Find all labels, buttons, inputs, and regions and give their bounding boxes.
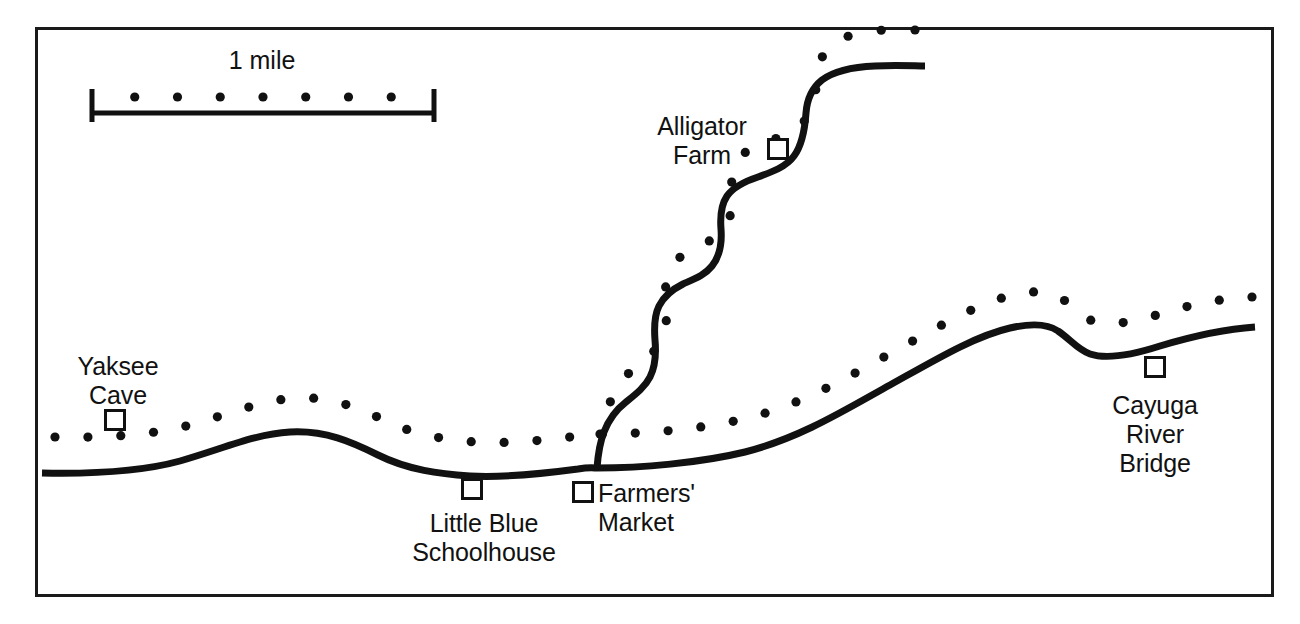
dotted-trail-lines [50, 25, 1256, 447]
label-cayuga-river-bridge: Cayuga River Bridge [1112, 391, 1198, 478]
marker-yaksee-cave[interactable] [106, 411, 125, 430]
marker-cayuga-river-bridge[interactable] [1146, 358, 1165, 377]
main-valley-trail-dotted-dot [341, 400, 350, 409]
main-valley-trail-dotted-dot [760, 409, 769, 418]
alligator-farm-trail-dotted-dot [818, 52, 827, 61]
main-valley-trail-dotted-dot [1247, 292, 1256, 301]
alligator-farm-trail-dotted-dot [705, 236, 714, 245]
main-valley-trail-dotted-dot [434, 433, 443, 442]
alligator-farm-trail-dotted [595, 25, 919, 438]
main-valley-trail-dotted-dot [565, 432, 574, 441]
main-valley-trail-dotted-dot [879, 352, 888, 361]
label-yaksee-cave: Yaksee Cave [78, 352, 159, 410]
main-valley-trail-dotted-dot [1086, 316, 1095, 325]
main-valley-trail-dotted-dot [729, 417, 738, 426]
main-valley-trail-dotted-dot [213, 412, 222, 421]
main-valley-trail-dotted-dot [937, 321, 946, 330]
main-valley-trail-dotted-dot [908, 336, 917, 345]
main-valley-trail-dotted-dot [791, 397, 800, 406]
main-valley-trail-dotted-dot [821, 384, 830, 393]
main-valley-trail-dotted-dot [1119, 318, 1128, 327]
main-valley-trail-dotted-dot [966, 306, 975, 315]
label-little-blue-schoolhouse: Little Blue Schoolhouse [412, 509, 555, 567]
scale-bar-label: 1 mile [229, 46, 296, 75]
alligator-farm-trail-dotted-dot [726, 211, 735, 220]
scale-bar-dot [344, 92, 353, 101]
scale-bar-dot [258, 92, 267, 101]
main-valley-trail-dotted-dot [83, 433, 92, 442]
main-valley-trail-dotted-dot [499, 438, 508, 447]
main-valley-trail-dotted-dot [850, 368, 859, 377]
main-valley-trail-dotted-dot [244, 402, 253, 411]
main-valley-trail-dotted-dot [372, 412, 381, 421]
main-valley-trail-dotted-dot [149, 428, 158, 437]
scale-bar-dot [301, 92, 310, 101]
marker-farmers-market[interactable] [574, 483, 593, 502]
marker-alligator-farm[interactable] [769, 140, 788, 159]
alligator-farm-trail-dotted-dot [624, 369, 633, 378]
alligator-farm-trail-dotted-dot [843, 32, 852, 41]
scale-bar-dots [130, 92, 396, 101]
main-valley-trail-dotted-dot [276, 395, 285, 404]
main-valley-trail-dotted-dot [696, 422, 705, 431]
scale-bar-dot [216, 92, 225, 101]
main-valley-road [42, 325, 1255, 477]
main-valley-trail-dotted-dot [1215, 296, 1224, 305]
scale-bar-dot [387, 92, 396, 101]
main-valley-trail-dotted-dot [631, 428, 640, 437]
main-valley-trail-dotted-dot [402, 425, 411, 434]
main-valley-trail-dotted-dot [467, 437, 476, 446]
main-valley-trail-dotted-dot [997, 294, 1006, 303]
main-valley-trail-dotted-dot [116, 431, 125, 440]
scale-bar [92, 89, 434, 122]
alligator-farm-trail-dotted-dot [606, 397, 615, 406]
marker-little-blue-schoolhouse[interactable] [463, 480, 482, 499]
main-valley-trail-dotted-dot [532, 436, 541, 445]
label-farmers-market: Farmers' Market [598, 479, 695, 537]
main-valley-trail-dotted-dot [1029, 287, 1038, 296]
scale-bar-dot [173, 92, 182, 101]
alligator-farm-trail-dotted-dot [877, 26, 886, 35]
main-valley-trail-dotted-dot [663, 426, 672, 435]
alligator-farm-trail-dotted-dot [675, 253, 684, 262]
main-valley-trail-dotted-dot [309, 394, 318, 403]
terrain-profile-map: 1 mile Yaksee Cave Little Blue Schoolhou… [0, 0, 1300, 624]
road-lines [42, 66, 1255, 477]
alligator-farm-trail-dotted-dot [662, 316, 671, 325]
label-alligator-farm: Alligator Farm [657, 112, 746, 170]
main-valley-trail-dotted-dot [1182, 302, 1191, 311]
main-valley-trail-dotted-dot [1060, 296, 1069, 305]
scale-bar-dot [130, 92, 139, 101]
alligator-farm-trail-dotted-dot [910, 25, 919, 34]
main-valley-trail-dotted-dot [1151, 311, 1160, 320]
alligator-farm-switchback-road [597, 66, 925, 468]
main-valley-trail-dotted-dot [181, 421, 190, 430]
landmark-markers [106, 140, 1165, 502]
main-valley-trail-dotted-dot [50, 432, 59, 441]
